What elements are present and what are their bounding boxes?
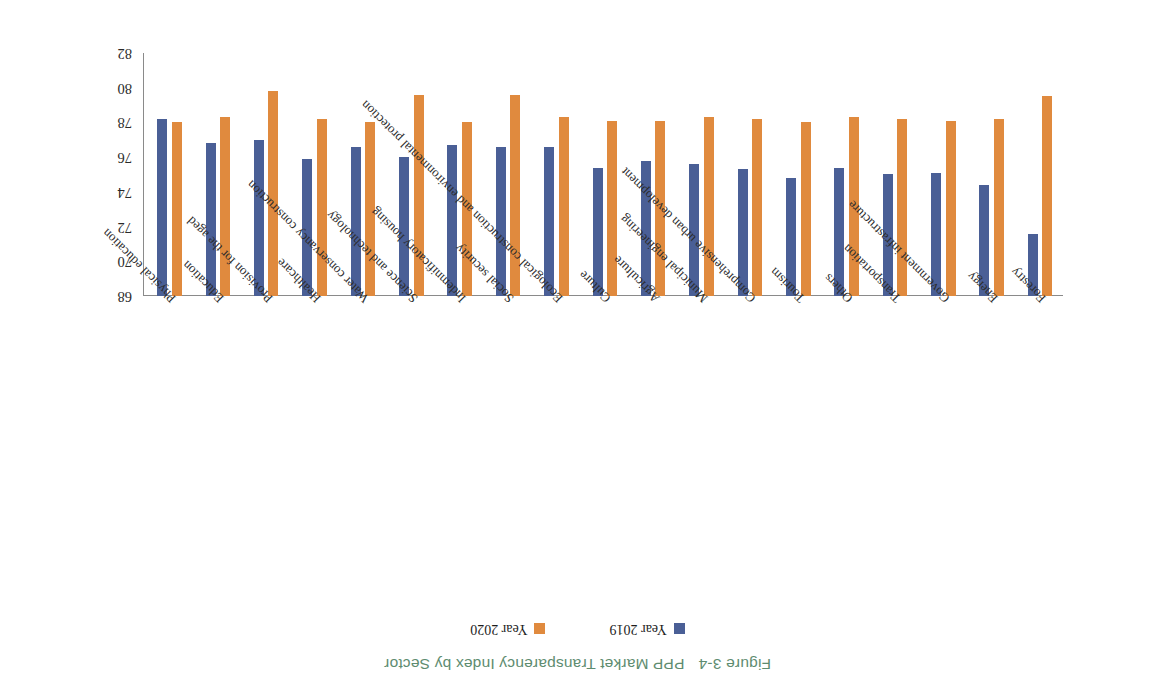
chart-legend: Year 2019 Year 2020: [0, 621, 1155, 637]
category-label: Healthcare: [274, 256, 323, 305]
legend-label-year-2020: Year 2020: [470, 621, 527, 637]
legend-swatch-blue-icon: [674, 624, 685, 635]
category-label: Forestry: [1009, 265, 1049, 305]
category-label: Indemnificatory housing: [368, 205, 468, 305]
y-axis-tick: 80: [118, 79, 133, 96]
legend-label-year-2019: Year 2019: [610, 621, 667, 637]
y-axis-tick: 82: [118, 45, 133, 62]
category-label: Science and technology: [323, 209, 419, 305]
category-label: Energy: [965, 270, 1001, 306]
category-label: Education: [180, 259, 226, 305]
y-axis-tick: 76: [118, 149, 133, 166]
y-axis-tick: 72: [118, 218, 133, 235]
category-label: Municipal engineering: [617, 213, 710, 306]
category-label: Tourism: [767, 265, 807, 305]
legend-item-year-2019: Year 2019: [610, 621, 685, 637]
category-label: Provision for the aged: [184, 215, 275, 306]
category-label: Others: [821, 271, 855, 305]
legend-item-year-2020: Year 2020: [470, 621, 545, 637]
y-axis-tick: 78: [118, 114, 133, 131]
legend-swatch-orange-icon: [535, 624, 546, 635]
y-axis-tick: 74: [118, 183, 133, 200]
category-labels: ForestryEnergyGovernment infrastructureT…: [144, 53, 1063, 296]
y-axis-tick: 68: [118, 288, 133, 305]
scanned-page-upside-down: Figure 3-4PPP Market Transparency Index …: [0, 0, 1155, 681]
bar-chart-plot-area: 6870727476788082 ForestryEnergyGovernmen…: [144, 53, 1063, 296]
figure-caption: Figure 3-4PPP Market Transparency Index …: [0, 655, 1155, 673]
category-label: Culture: [576, 268, 613, 305]
category-label: Agriculture: [610, 254, 662, 306]
figure-title: PPP Market Transparency Index by Sector: [384, 656, 684, 673]
figure-number: Figure 3-4: [698, 656, 771, 673]
